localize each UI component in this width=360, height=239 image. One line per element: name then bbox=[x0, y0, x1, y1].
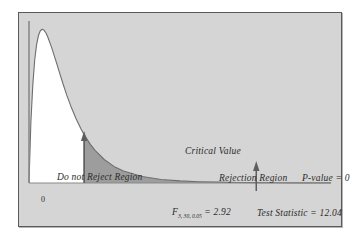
origin-tick-label: 0 bbox=[41, 196, 45, 204]
test-statistic-label: Test Statistic = 12.04 bbox=[257, 209, 342, 219]
test-statistic-arrowhead bbox=[253, 161, 259, 171]
curve-area-fill bbox=[29, 29, 331, 183]
critical-value-label: Critical Value bbox=[185, 147, 241, 157]
f-subscript: 3, 30, 0.05 bbox=[178, 213, 202, 219]
figure-canvas: Do not Reject Region Rejection Region Cr… bbox=[0, 0, 360, 239]
chart-panel: Do not Reject Region Rejection Region Cr… bbox=[18, 12, 342, 227]
f-critical-value-label: F3, 30, 0.05 = 2.92 bbox=[172, 208, 231, 219]
f-value: = 2.92 bbox=[202, 207, 231, 217]
rejection-region-label: Rejection Region bbox=[219, 174, 287, 184]
f-distribution-plot bbox=[19, 13, 341, 226]
p-value-label: P-value = 0 bbox=[302, 174, 350, 184]
do-not-reject-region-label: Do not Reject Region bbox=[57, 173, 143, 183]
